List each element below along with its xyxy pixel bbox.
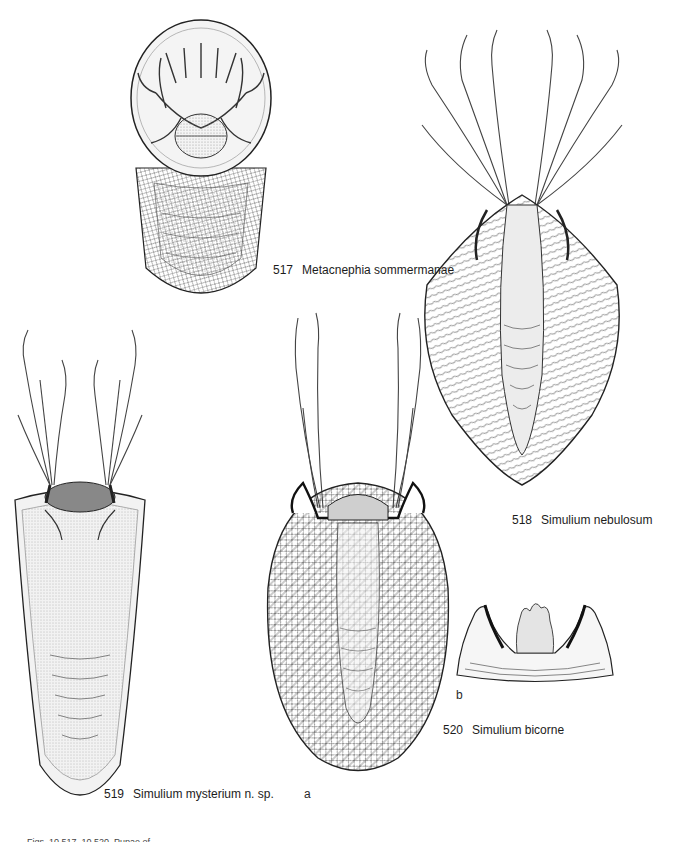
figure-519-number: 519 <box>104 787 124 801</box>
figure-520-sublabel-b: b <box>456 688 463 702</box>
figure-517-number: 517 <box>273 263 293 277</box>
figure-519-illustration <box>10 325 150 820</box>
figure-520b-illustration <box>455 593 615 683</box>
figure-520a-illustration <box>258 308 458 783</box>
figure-518-species: Simulium nebulosum <box>541 513 652 527</box>
figure-518-label: 518Simulium nebulosum <box>512 513 652 527</box>
figure-520-label: 520Simulium bicorne <box>443 723 564 737</box>
figure-517-illustration <box>126 18 276 303</box>
figure-520-species: Simulium bicorne <box>472 723 564 737</box>
figure-518-number: 518 <box>512 513 532 527</box>
figure-520-sublabel-a: a <box>304 787 311 801</box>
figure-519-label: 519Simulium mysterium n. sp. <box>104 787 274 801</box>
figure-520-number: 520 <box>443 723 463 737</box>
figure-519-species: Simulium mysterium n. sp. <box>133 787 274 801</box>
plate-caption: Figs. 10.517–10.520. Pupae of... <box>27 834 158 842</box>
